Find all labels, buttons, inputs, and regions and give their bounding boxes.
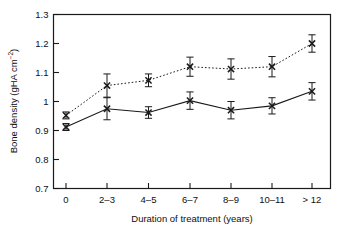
y-axis-title-close: ): [8, 49, 19, 52]
x-axis-title-text: Duration of treatment (years): [131, 213, 252, 224]
svg-text:Bone density (gHA cm−2): Bone density (gHA cm−2): [7, 49, 19, 154]
x-tick-label: 0: [63, 194, 68, 205]
bone-density-chart: 1.31.21.110.90.80.7 02–34–56–78–910–11> …: [0, 0, 353, 229]
data-series-layer: [62, 35, 315, 131]
y-axis-title: Bone density (gHA cm−2): [7, 49, 19, 154]
y-axis: 1.31.21.110.90.80.7: [35, 9, 59, 194]
y-tick-label: 0.8: [35, 154, 48, 165]
chart-canvas: 1.31.21.110.90.80.7 02–34–56–78–910–11> …: [0, 0, 353, 229]
x-tick-label: 4–5: [141, 194, 157, 205]
y-tick-label: 1: [43, 96, 48, 107]
series-lower-series: [62, 83, 315, 131]
y-tick-label: 1.2: [35, 38, 48, 49]
series-upper-series: [62, 35, 315, 119]
y-tick-label: 0.7: [35, 183, 48, 194]
y-tick-label: 1.3: [35, 9, 48, 20]
y-axis-title-text: Bone density (gHA cm: [8, 59, 19, 153]
x-tick-label: 6–7: [182, 194, 198, 205]
x-axis: 02–34–56–78–910–11> 12: [63, 183, 321, 205]
x-tick-label: 10–11: [259, 194, 285, 205]
x-axis-title: Duration of treatment (years): [131, 213, 252, 224]
x-tick-label: 2–3: [99, 194, 115, 205]
y-tick-label: 1.1: [35, 67, 48, 78]
x-tick-label: > 12: [303, 194, 322, 205]
y-tick-label: 0.9: [35, 125, 48, 136]
x-tick-label: 8–9: [223, 194, 239, 205]
